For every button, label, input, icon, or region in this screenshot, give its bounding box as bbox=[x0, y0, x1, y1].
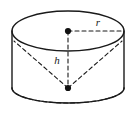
cylinder-diagram-canvas: r h bbox=[0, 0, 136, 115]
bottom-apex-point bbox=[65, 85, 71, 91]
radius-label: r bbox=[96, 16, 101, 28]
height-label: h bbox=[54, 54, 60, 66]
cylinder-figure: r h bbox=[0, 0, 136, 115]
top-center-point bbox=[65, 28, 71, 34]
diagram-background bbox=[0, 0, 136, 115]
